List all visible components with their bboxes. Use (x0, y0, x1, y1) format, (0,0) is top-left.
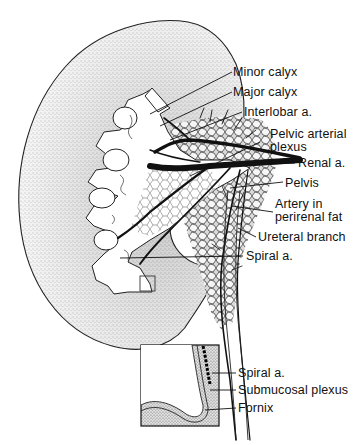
label-ureteral-branch: Ureteral branch (258, 231, 346, 244)
label-spiral-artery: Spiral a. (246, 250, 293, 263)
label-minor-calyx: Minor calyx (233, 66, 297, 79)
label-renal-artery: Renal a. (298, 157, 345, 170)
label-artery-perirenal-fat-2: perirenal fat (275, 211, 342, 224)
inset-label-fornix: Fornix (238, 402, 273, 415)
label-major-calyx: Major calyx (233, 86, 297, 99)
inset-label-submucosal-plexus: Submucosal plexus (238, 384, 348, 397)
inset-fornix (141, 345, 219, 426)
label-pelvis: Pelvis (285, 177, 319, 190)
label-interlobar-artery: Interlobar a. (244, 106, 312, 119)
inset-label-spiral-artery: Spiral a. (238, 367, 285, 380)
label-pelvic-arterial-plexus-2: plexus (270, 141, 307, 154)
